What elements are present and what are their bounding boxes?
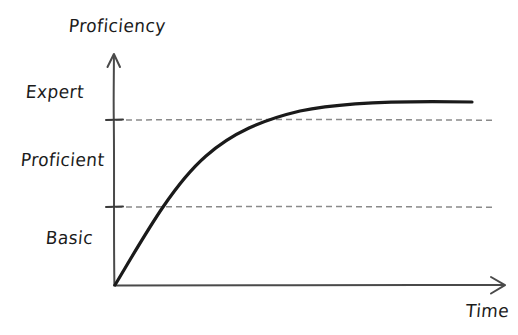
axes: [106, 54, 505, 294]
y-axis-line: [114, 56, 115, 285]
band-label-expert: Expert: [25, 81, 85, 102]
chart-canvas: Proficiency Expert Proficient Basic Time: [0, 0, 518, 335]
y-axis-title: Proficiency: [68, 15, 167, 36]
band-label-proficient: Proficient: [20, 149, 106, 170]
threshold-lines: [106, 119, 493, 207]
x-axis-title: Time: [465, 300, 510, 321]
band-label-basic: Basic: [45, 227, 94, 248]
expert-threshold-line: [106, 119, 493, 120]
proficiency-curve: [115, 102, 472, 285]
